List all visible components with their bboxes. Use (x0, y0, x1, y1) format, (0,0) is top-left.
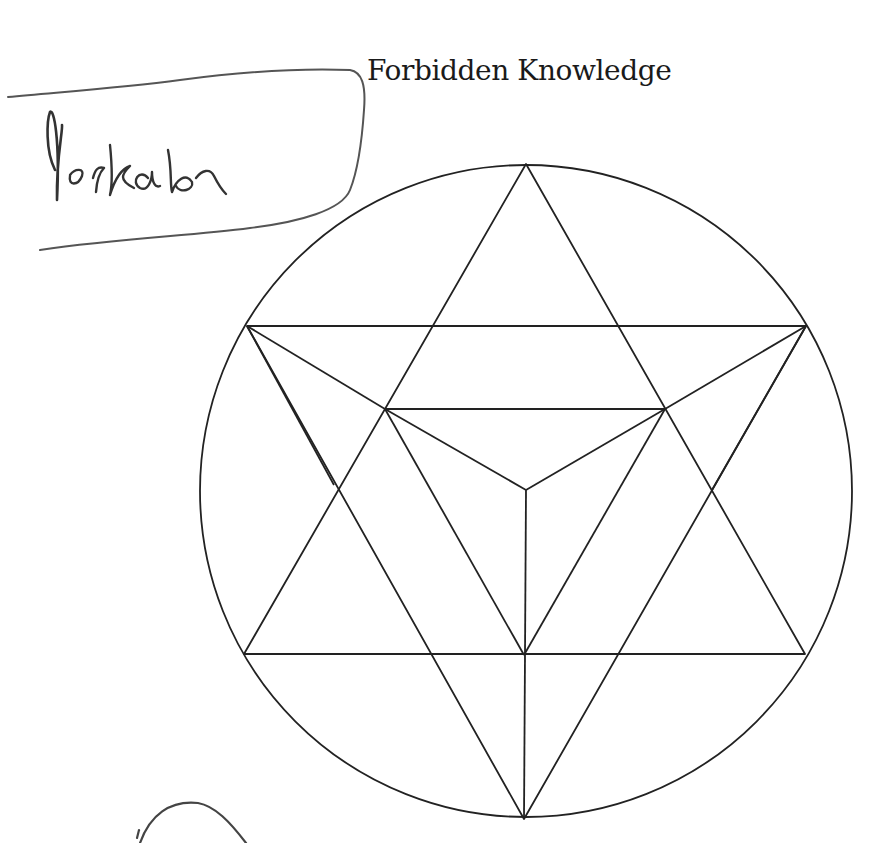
drawing-canvas (0, 0, 878, 843)
merkaba-figure (200, 164, 852, 819)
downward-triangle (247, 326, 806, 819)
handwritten-annotation (8, 69, 364, 250)
partial-scribble (137, 803, 246, 843)
